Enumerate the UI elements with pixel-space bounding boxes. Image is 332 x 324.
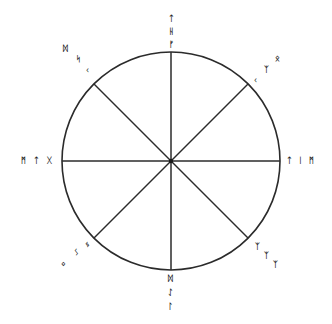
glyph-southwest-2: ᛊ (71, 248, 81, 258)
glyphs-northeast: ᚲ ᛉ ᛟ (250, 54, 290, 88)
glyph-north-2: ᚺ (166, 27, 176, 37)
glyph-northeast-2: ᛉ (261, 65, 271, 75)
glyph-northwest-1: ᚲ (82, 66, 92, 76)
glyphs-west: ᛗ ᛏ ᚷ (18, 156, 58, 168)
glyph-northeast-3: ᛟ (272, 54, 282, 64)
glyph-southwest-1: ᛃ (82, 240, 92, 250)
glyph-north-1: ᛏ (166, 14, 176, 24)
glyph-south-1: ᛞ (165, 274, 175, 284)
glyph-southwest-3: ᛜ (58, 260, 68, 270)
glyph-northwest-2: ᛋ (73, 55, 83, 65)
center-point (169, 159, 173, 163)
glyph-south-3: ᛚ (165, 302, 175, 312)
glyphs-east: ᛏ ᛁ ᛗ (284, 156, 324, 168)
glyph-northeast-1: ᚲ (250, 76, 260, 86)
glyph-west-1: ᛗ (18, 156, 28, 166)
glyph-east-2: ᛁ (295, 156, 305, 166)
glyph-north-3: ᚠ (166, 40, 176, 50)
glyphs-south: ᛞ ᛇ ᛚ (165, 274, 177, 318)
glyphs-north: ᛏ ᚺ ᚠ (166, 14, 178, 54)
glyph-west-3: ᚷ (44, 156, 54, 166)
glyph-east-1: ᛏ (284, 156, 294, 166)
glyph-northwest-3: ᛞ (60, 44, 70, 54)
glyphs-northwest: ᚲ ᛋ ᛞ (60, 44, 96, 80)
glyphs-southwest: ᛃ ᛊ ᛜ (58, 240, 98, 274)
glyph-west-2: ᛏ (31, 156, 41, 166)
glyph-east-3: ᛗ (306, 156, 316, 166)
glyph-southeast-3: ᛉ (270, 260, 280, 270)
glyph-south-2: ᛇ (165, 288, 175, 298)
glyphs-southeast: ᛉ ᛉ ᛉ (252, 242, 292, 282)
